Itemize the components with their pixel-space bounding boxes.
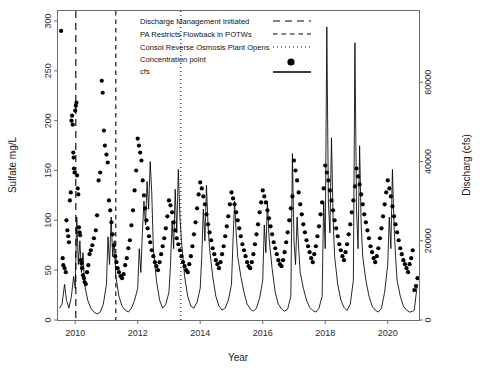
concentration-point <box>314 244 318 248</box>
concentration-point <box>331 208 335 212</box>
chart-figure: 201020122014201620182020 050100150200250… <box>0 0 484 371</box>
concentration-point <box>239 234 243 238</box>
concentration-point <box>267 216 271 220</box>
concentration-point <box>415 276 419 280</box>
concentration-point <box>351 198 355 202</box>
concentration-point <box>74 101 78 105</box>
concentration-point <box>368 244 372 248</box>
concentration-point <box>86 263 90 267</box>
concentration-point <box>389 194 393 198</box>
concentration-point <box>289 206 293 210</box>
concentration-point <box>387 186 391 190</box>
concentration-point <box>315 234 319 238</box>
y-axis-right-title: Discharg (cfs) <box>461 134 472 196</box>
concentration-point <box>112 243 116 247</box>
concentration-point <box>308 250 312 254</box>
legend-label-1: PA Restricts Flowback in POTWs <box>140 30 252 39</box>
concentration-point <box>132 188 136 192</box>
concentration-point <box>409 256 413 260</box>
x-axis-title: Year <box>228 352 249 363</box>
legend-label-2: Consol Reverse Osmosis Plant Opens <box>140 43 270 52</box>
concentration-point <box>75 173 79 177</box>
concentration-point <box>303 230 307 234</box>
x-tick-label: 2010 <box>65 328 85 338</box>
concentration-point <box>167 198 171 202</box>
concentration-point <box>82 276 86 280</box>
concentration-point <box>356 174 360 178</box>
concentration-point <box>361 202 365 206</box>
concentration-point <box>66 234 70 238</box>
concentration-point <box>333 218 337 222</box>
concentration-point <box>212 252 216 256</box>
concentration-point <box>157 260 161 264</box>
concentration-point <box>128 238 132 242</box>
concentration-point <box>323 163 327 167</box>
concentration-point <box>256 222 260 226</box>
concentration-point <box>329 198 333 202</box>
concentration-point <box>101 91 105 95</box>
concentration-point <box>218 260 222 264</box>
concentration-point <box>70 114 74 118</box>
concentration-point <box>77 225 81 229</box>
concentration-point <box>398 246 402 250</box>
concentration-point <box>404 266 408 270</box>
concentration-point <box>204 212 208 216</box>
y-tick-label: 0 <box>43 317 53 322</box>
concentration-point <box>76 192 80 196</box>
concentration-point <box>284 240 288 244</box>
concentration-point <box>370 250 374 254</box>
concentration-point <box>189 254 193 258</box>
concentration-point <box>186 270 190 274</box>
concentration-point <box>214 258 218 262</box>
y-tick-label: 250 <box>43 63 53 78</box>
concentration-point <box>168 203 172 207</box>
concentration-point <box>276 258 280 262</box>
concentration-point <box>384 190 388 194</box>
concentration-point <box>161 244 165 248</box>
concentration-point <box>84 282 88 286</box>
concentration-point <box>209 238 213 242</box>
concentration-point <box>367 236 371 240</box>
concentration-point <box>134 168 138 172</box>
concentration-point <box>64 270 68 274</box>
concentration-point <box>348 222 352 226</box>
concentration-point <box>364 220 368 224</box>
concentration-point <box>217 266 221 270</box>
concentration-point <box>176 242 180 246</box>
y-tick-label: 200 <box>43 113 53 128</box>
concentration-point <box>114 260 118 264</box>
concentration-point <box>400 252 404 256</box>
concentration-point <box>207 230 211 234</box>
concentration-point <box>228 202 232 206</box>
concentration-point <box>102 129 106 133</box>
concentration-point <box>236 218 240 222</box>
concentration-point <box>311 260 315 264</box>
concentration-point <box>381 214 385 218</box>
concentration-point <box>375 254 379 258</box>
concentration-point <box>92 236 96 240</box>
concentration-point <box>397 238 401 242</box>
concentration-point <box>111 232 115 236</box>
concentration-point <box>390 204 394 208</box>
concentration-point <box>237 226 241 230</box>
concentration-point <box>143 206 147 210</box>
concentration-point <box>259 200 263 204</box>
concentration-point <box>298 202 302 206</box>
concentration-point <box>240 242 244 246</box>
concentration-point <box>326 178 330 182</box>
concentration-point <box>71 150 75 154</box>
concentration-point <box>181 260 185 264</box>
concentration-point <box>126 246 130 250</box>
concentration-point <box>178 248 182 252</box>
concentration-point <box>64 218 68 222</box>
concentration-point <box>193 220 197 224</box>
concentration-point <box>275 252 279 256</box>
y2-tick-label: 20000 <box>423 228 433 253</box>
point-key-icon <box>287 58 294 65</box>
concentration-point <box>98 170 102 174</box>
concentration-point <box>373 260 377 264</box>
x-tick-label: 2014 <box>190 328 210 338</box>
sulfate-discharge-timeseries-chart: 201020122014201620182020 050100150200250… <box>0 0 484 371</box>
concentration-point <box>211 246 215 250</box>
concentration-point <box>309 256 313 260</box>
